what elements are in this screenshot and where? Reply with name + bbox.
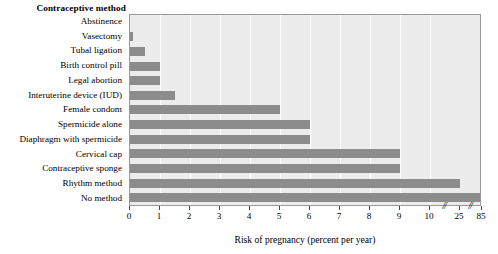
- value-axis-title: Risk of pregnancy (percent per year): [129, 234, 481, 245]
- bar-row: [130, 176, 480, 191]
- bar-series: [130, 15, 480, 205]
- category-label: No method: [0, 191, 126, 206]
- plot-area: [129, 14, 481, 206]
- bar: [130, 105, 280, 114]
- bar: [130, 120, 310, 129]
- axis-break-marker: //: [468, 201, 472, 211]
- bar: [130, 62, 160, 71]
- category-label: Vasectomy: [0, 29, 126, 44]
- axis-tick: [279, 206, 280, 210]
- bar-row: [130, 190, 480, 205]
- axis-tick: [459, 206, 460, 210]
- axis-tick: [159, 206, 160, 210]
- value-axis: 0123456789102585////: [129, 206, 481, 207]
- bar-row: [130, 103, 480, 118]
- category-label: Female condom: [0, 103, 126, 118]
- category-label: Tubal ligation: [0, 44, 126, 59]
- bar-row: [130, 88, 480, 103]
- axis-tick: [309, 206, 310, 210]
- axis-tick-label: 6: [307, 211, 312, 221]
- bar: [130, 179, 460, 188]
- bar-row: [130, 161, 480, 176]
- axis-break-marker: //: [442, 201, 446, 211]
- axis-tick-label: 9: [397, 211, 402, 221]
- category-label: Spermicide alone: [0, 117, 126, 132]
- category-label: Diaphragm with spermicide: [0, 132, 126, 147]
- bar-row: [130, 132, 480, 147]
- bar: [130, 32, 133, 41]
- axis-tick-label: 0: [127, 211, 132, 221]
- axis-tick: [189, 206, 190, 210]
- axis-tick-label: 4: [247, 211, 252, 221]
- category-label: Abstinence: [0, 14, 126, 29]
- axis-tick-label: 8: [367, 211, 372, 221]
- axis-tick: [399, 206, 400, 210]
- axis-tick-label: 2: [187, 211, 192, 221]
- category-label: Birth control pill: [0, 58, 126, 73]
- axis-tick: [339, 206, 340, 210]
- bar: [130, 76, 160, 85]
- axis-tick: [129, 206, 130, 210]
- bar: [130, 149, 400, 158]
- category-label-column: AbstinenceVasectomyTubal ligationBirth c…: [0, 14, 126, 206]
- contraceptive-risk-bar-chart: Contraceptive method AbstinenceVasectomy…: [0, 0, 498, 254]
- category-label: Contraceptive sponge: [0, 162, 126, 177]
- category-label: Interuterine device (IUD): [0, 88, 126, 103]
- axis-tick-label: 10: [424, 211, 433, 221]
- axis-tick: [249, 206, 250, 210]
- axis-tick-label: 5: [277, 211, 282, 221]
- axis-tick-label: 3: [217, 211, 222, 221]
- category-label: Rhythm method: [0, 176, 126, 191]
- bar-row: [130, 15, 480, 30]
- bar: [130, 164, 400, 173]
- bar: [130, 91, 175, 100]
- axis-tick: [219, 206, 220, 210]
- bar: [130, 193, 480, 202]
- bar-row: [130, 44, 480, 59]
- axis-tick: [481, 206, 482, 210]
- bar-row: [130, 30, 480, 45]
- category-label: Legal abortion: [0, 73, 126, 88]
- bar-row: [130, 73, 480, 88]
- bar-row: [130, 146, 480, 161]
- bar: [130, 47, 145, 56]
- axis-tick-label: 7: [337, 211, 342, 221]
- category-label: Cervical cap: [0, 147, 126, 162]
- axis-tick-label: 25: [454, 211, 463, 221]
- bar: [130, 135, 310, 144]
- bar-row: [130, 117, 480, 132]
- category-axis-title: Contraceptive method: [0, 3, 126, 13]
- axis-tick: [429, 206, 430, 210]
- axis-tick-label: 85: [476, 211, 485, 221]
- axis-tick: [369, 206, 370, 210]
- axis-tick-label: 1: [157, 211, 162, 221]
- bar-row: [130, 59, 480, 74]
